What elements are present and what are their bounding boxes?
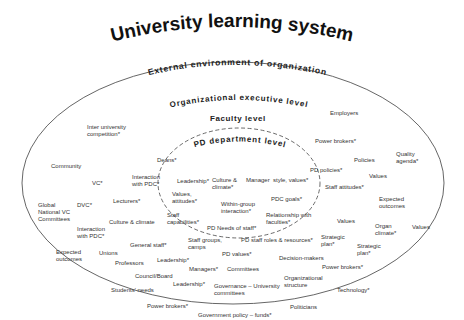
factor-label: Council/Board xyxy=(135,273,173,280)
factor-label: Decision-makers xyxy=(279,255,324,262)
pd-factor-label: Leadership* xyxy=(177,178,209,185)
factor-label: VC* xyxy=(92,180,103,187)
pd-factor-label: PD values* xyxy=(222,251,252,258)
pd-factor-label: Culture & climate* xyxy=(212,177,237,191)
factor-label: Governance – University committees xyxy=(214,283,280,297)
factor-label: Committees xyxy=(227,266,259,273)
pd-factor-label: Manager style, values* xyxy=(246,177,308,184)
pd-factor-label: PDC goals* xyxy=(271,196,302,203)
factor-label: Inter university competition* xyxy=(87,124,126,138)
pd-factor-label: PD Needs of staff* xyxy=(207,225,256,232)
factor-label: Students' needs xyxy=(111,287,154,294)
faculty-level-label: Faculty level xyxy=(210,114,266,123)
factor-label: Interaction with PDC* xyxy=(132,174,160,188)
pd-factor-label: Staff capabilities* xyxy=(167,212,199,226)
factor-label: Technology* xyxy=(337,287,370,294)
factor-label: Politicians xyxy=(290,304,317,311)
factor-label: Values xyxy=(412,224,430,231)
factor-label: Policies xyxy=(354,157,375,164)
factor-label: Interaction with PDC* xyxy=(77,226,105,240)
pd-factor-label: Values, attitudes* xyxy=(172,191,197,205)
factor-label: Leadership* xyxy=(157,257,189,264)
factor-label: Organizational structure xyxy=(284,275,323,289)
factor-label: Culture & climate xyxy=(109,219,155,226)
factor-label: Global National VC Committees xyxy=(38,202,70,223)
factor-label: Leadership* xyxy=(173,281,205,288)
factor-label: General staff* xyxy=(130,242,167,249)
factor-label: Employers xyxy=(330,110,358,117)
factor-label: Organ climate* xyxy=(375,223,396,237)
factor-label: DVC* xyxy=(77,202,92,209)
pd-department-level-label: PD department level xyxy=(193,134,287,149)
factor-label: Government policy – funds* xyxy=(198,312,272,319)
factor-label: Unions xyxy=(99,250,118,257)
pd-factor-label: Staff groups, camps xyxy=(188,237,222,251)
factor-label: Managers* xyxy=(189,266,218,273)
factor-label: Deans* xyxy=(157,157,177,164)
pd-factor-label: Within-group interaction* xyxy=(221,201,255,215)
factor-label: Lecturers* xyxy=(113,198,140,205)
factor-label: Expected outcomes xyxy=(379,196,405,210)
factor-label: Expected outcomes xyxy=(56,249,82,263)
university-learning-system-diagram: University learning system External envi… xyxy=(0,0,464,320)
factor-label: Values xyxy=(369,173,387,180)
factor-label: Power brokers* xyxy=(315,138,356,145)
factor-label: Staff attitudes* xyxy=(325,184,364,191)
factor-label: Strategic plan* xyxy=(321,234,345,248)
factor-label: Community xyxy=(51,163,81,170)
factor-label: Strategic plan* xyxy=(357,243,381,257)
factor-label: PD policies* xyxy=(310,167,342,174)
factor-label: Power brokers* xyxy=(322,264,363,271)
external-environment-level-label: External environment of organization xyxy=(147,57,328,77)
factor-label: Values xyxy=(337,218,355,225)
factor-label: Professors xyxy=(115,260,144,267)
diagram-title: University learning system xyxy=(108,10,355,45)
pd-factor-label: PD staff roles & resources* xyxy=(241,237,313,244)
factor-label: Quality agenda* xyxy=(396,151,418,165)
factor-label: Power brokers* xyxy=(147,303,188,310)
organizational-executive-level-label: Organizational executive level xyxy=(169,93,309,109)
pd-factor-label: Relationship with faculties* xyxy=(266,212,311,226)
